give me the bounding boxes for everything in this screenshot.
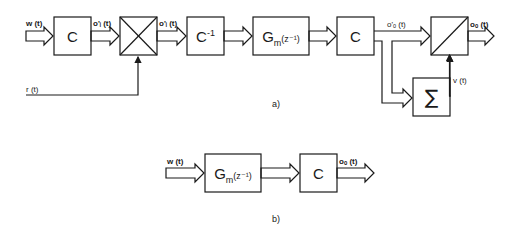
arrow-c2-div: [374, 27, 430, 107]
gm-arg: (z⁻¹): [281, 34, 300, 44]
arrow-input-b: [166, 164, 204, 182]
signal-after-c1-text: o'ᵢ (t): [93, 19, 111, 28]
gm-b-base: G: [214, 165, 226, 182]
caption-b: b): [272, 214, 280, 224]
gm-b-arg: (z⁻¹): [233, 171, 252, 181]
signal-input-b: w (t): [167, 158, 183, 166]
block-gm-label: Gm(z⁻¹): [253, 29, 309, 48]
signal-output-b-text: oₒ (t): [339, 157, 357, 166]
block-c-b-label: C: [300, 166, 337, 181]
signal-input-a-text: w (t): [26, 19, 42, 28]
arrow-output-a: [468, 27, 494, 45]
signal-after-c2: o'ₒ (t): [387, 21, 406, 29]
arrow-gm-c2: [309, 27, 336, 45]
block-cinv-base: C: [196, 28, 207, 45]
block-gm-b-label: Gm(z⁻¹): [205, 166, 261, 185]
block-cinv-sup: -1: [207, 28, 215, 38]
arrow-output-b: [337, 164, 374, 182]
signal-after-c1: o'ᵢ (t): [93, 20, 111, 28]
arrow-cinv-gm: [224, 27, 252, 45]
arrow-gm-c-b: [261, 164, 299, 182]
signal-after-mult-text: o'ᵢ (t): [159, 19, 177, 28]
signal-output-a: oₒ (t): [470, 21, 488, 29]
caption-a: a): [272, 99, 280, 109]
signal-v: v (t): [453, 77, 467, 85]
block-c2-label: C: [337, 29, 374, 44]
signal-input-a: w (t): [26, 20, 42, 28]
arrow-input-a: [26, 27, 53, 45]
signal-output-b: oₒ (t): [339, 158, 357, 166]
signal-after-mult: o'ᵢ (t): [159, 20, 177, 28]
arrow-mult-cinv: [157, 27, 186, 45]
arrow-c1-mult: [91, 27, 119, 45]
sigma-symbol: ∑: [425, 85, 439, 109]
signal-output-a-text: oₒ (t): [470, 20, 488, 29]
signal-reference: r (t): [26, 86, 38, 94]
block-c1-label: C: [54, 29, 91, 44]
line-r: [26, 57, 138, 95]
signal-input-b-text: w (t): [167, 157, 183, 166]
gm-base: G: [262, 28, 274, 45]
block-cinv-label: C-1: [187, 29, 224, 44]
